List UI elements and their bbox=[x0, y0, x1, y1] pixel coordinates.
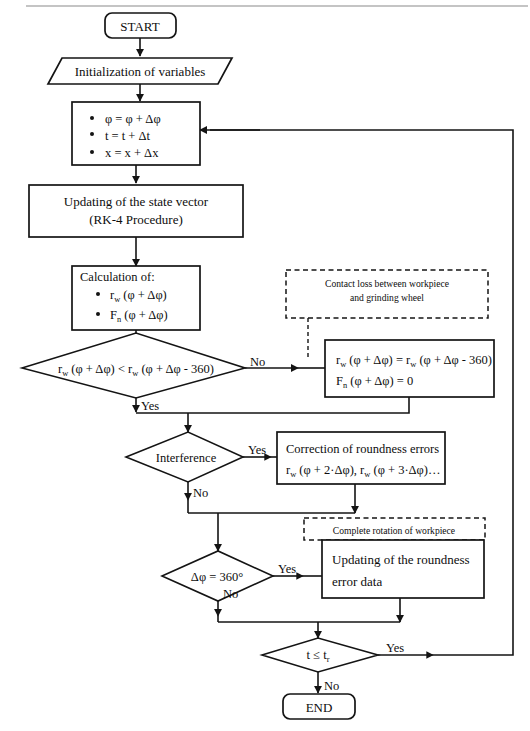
node-state-vector bbox=[29, 185, 243, 237]
connector-assign-to-merge bbox=[136, 397, 409, 413]
decision-interference-label: Interference bbox=[156, 451, 217, 465]
increment-line-2: t = t + Δt bbox=[105, 129, 151, 143]
flowchart-canvas: START Initialization of variables φ = φ … bbox=[0, 0, 530, 731]
correction-line-2: rw (φ + 2·Δφ), rw (φ + 3·Δφ)… bbox=[286, 463, 440, 479]
decision-phi-label: Δφ = 360° bbox=[191, 570, 243, 584]
contact-loss-note-line-2: and grinding wheel bbox=[350, 292, 424, 303]
bullet-marker bbox=[90, 116, 94, 120]
complete-rotation-note-label: Complete rotation of workpiece bbox=[333, 525, 455, 536]
node-initialization-label: Initialization of variables bbox=[75, 64, 206, 79]
bullet-marker bbox=[96, 312, 100, 316]
edge-label-rw-yes: Yes bbox=[141, 399, 159, 413]
edge-label-phi-yes: Yes bbox=[278, 562, 296, 576]
increment-line-3: x = x + Δx bbox=[105, 146, 159, 160]
edge-label-interference-no: No bbox=[193, 486, 208, 500]
bullet-marker bbox=[90, 150, 94, 154]
edge-label-rw-no: No bbox=[250, 355, 265, 369]
flowchart-page: START Initialization of variables φ = φ … bbox=[0, 0, 530, 731]
increment-line-1: φ = φ + Δφ bbox=[105, 112, 161, 126]
edge-label-time-no: No bbox=[324, 679, 339, 693]
decision-time-label: t ≤ tr bbox=[307, 648, 330, 664]
state-vector-line-2: (RK-4 Procedure) bbox=[89, 212, 183, 227]
contact-loss-note-line-1: Contact loss between workpiece bbox=[325, 278, 449, 289]
edge-label-interference-yes: Yes bbox=[248, 443, 266, 457]
state-vector-line-1: Updating of the state vector bbox=[64, 194, 209, 209]
bullet-marker bbox=[90, 132, 94, 136]
correction-line-1: Correction of roundness errors bbox=[286, 442, 439, 456]
update-roundness-line-1: Updating of the roundness bbox=[332, 552, 470, 567]
bullet-marker bbox=[96, 292, 100, 296]
node-end-label: END bbox=[306, 700, 333, 715]
calculation-header: Calculation of: bbox=[80, 270, 155, 284]
contact-loss-assignment-line-2: Fn (φ + Δφ) = 0 bbox=[336, 374, 413, 390]
edge-label-time-yes: Yes bbox=[386, 641, 404, 655]
edge-label-phi-no: No bbox=[223, 587, 238, 601]
update-roundness-line-2: error data bbox=[332, 574, 382, 589]
node-update-roundness bbox=[322, 540, 484, 598]
node-start-label: START bbox=[120, 19, 159, 34]
